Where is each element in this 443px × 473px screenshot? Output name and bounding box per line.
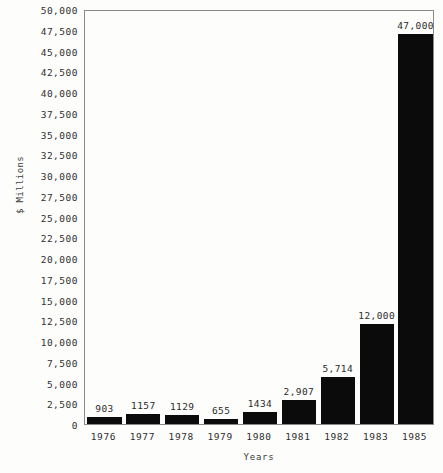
y-axis-tick: 27,500	[10, 191, 78, 202]
bar-group[interactable]: 1129	[165, 11, 199, 424]
bar-group[interactable]: 1157	[126, 11, 160, 424]
bar[interactable]	[282, 400, 316, 424]
y-axis-tick: 17,500	[10, 274, 78, 285]
y-axis-tick: 22,500	[10, 233, 78, 244]
x-axis-tick: 1982	[324, 431, 349, 442]
x-axis-tick: 1985	[402, 431, 427, 442]
x-axis-tick: 1978	[169, 431, 194, 442]
bar-group[interactable]: 5,714	[321, 11, 355, 424]
bar[interactable]	[321, 377, 355, 424]
x-axis-tick: 1980	[246, 431, 271, 442]
bar-group[interactable]: 2,907	[282, 11, 316, 424]
y-axis-tick: 37,500	[10, 108, 78, 119]
y-axis-tick: 47,500	[10, 25, 78, 36]
bar-value-label: 1157	[131, 400, 155, 411]
bar[interactable]	[165, 415, 199, 424]
y-axis-tick-labels: 50,00047,50045,00042,50040,00037,50035,0…	[10, 10, 78, 425]
x-axis-tick-labels: 197619771978197919801981198219831985	[84, 431, 434, 449]
bar-group[interactable]: 12,000	[360, 11, 394, 424]
bars-layer: 9031157112965514342,9075,71412,00047,000	[85, 11, 433, 424]
bar-value-label: 12,000	[358, 310, 395, 321]
x-axis-tick: 1976	[91, 431, 116, 442]
bar-value-label: 655	[212, 405, 230, 416]
x-axis-tick: 1981	[285, 431, 310, 442]
bar[interactable]	[126, 414, 160, 424]
bar-group[interactable]: 1434	[243, 11, 277, 424]
plot-area: 9031157112965514342,9075,71412,00047,000	[84, 10, 434, 425]
y-axis-tick: 2,500	[10, 399, 78, 410]
bar-value-label: 47,000	[397, 20, 434, 31]
bar-group[interactable]: 47,000	[398, 11, 432, 424]
y-axis-tick: 15,000	[10, 295, 78, 306]
y-axis-tick: 7,500	[10, 357, 78, 368]
bar-value-label: 2,907	[284, 386, 315, 397]
bar-group[interactable]: 903	[87, 11, 121, 424]
y-axis-tick: 40,000	[10, 88, 78, 99]
bar[interactable]	[398, 34, 432, 424]
y-axis-tick: 25,000	[10, 212, 78, 223]
y-axis-tick: 32,500	[10, 150, 78, 161]
y-axis-tick: 42,500	[10, 67, 78, 78]
y-axis-tick: 0	[10, 420, 78, 431]
y-axis-tick: 45,000	[10, 46, 78, 57]
bar-value-label: 5,714	[322, 363, 353, 374]
bar-chart: $ Millions 50,00047,50045,00042,50040,00…	[0, 0, 443, 473]
y-axis-tick: 20,000	[10, 254, 78, 265]
y-axis-tick: 12,500	[10, 316, 78, 327]
y-axis-tick: 35,000	[10, 129, 78, 140]
x-axis-title: Years	[84, 452, 434, 462]
y-axis-tick: 50,000	[10, 5, 78, 16]
bar-value-label: 903	[95, 403, 113, 414]
x-axis-tick: 1977	[130, 431, 155, 442]
y-axis-tick: 30,000	[10, 171, 78, 182]
y-axis-tick: 10,000	[10, 337, 78, 348]
x-axis-tick: 1979	[207, 431, 232, 442]
y-axis-tick: 5,000	[10, 378, 78, 389]
x-axis-tick: 1983	[363, 431, 388, 442]
bar[interactable]	[87, 417, 121, 424]
bar-value-label: 1434	[248, 398, 272, 409]
bar-group[interactable]: 655	[204, 11, 238, 424]
bar[interactable]	[360, 324, 394, 424]
bar[interactable]	[243, 412, 277, 424]
bar-value-label: 1129	[170, 401, 194, 412]
bar[interactable]	[204, 419, 238, 424]
